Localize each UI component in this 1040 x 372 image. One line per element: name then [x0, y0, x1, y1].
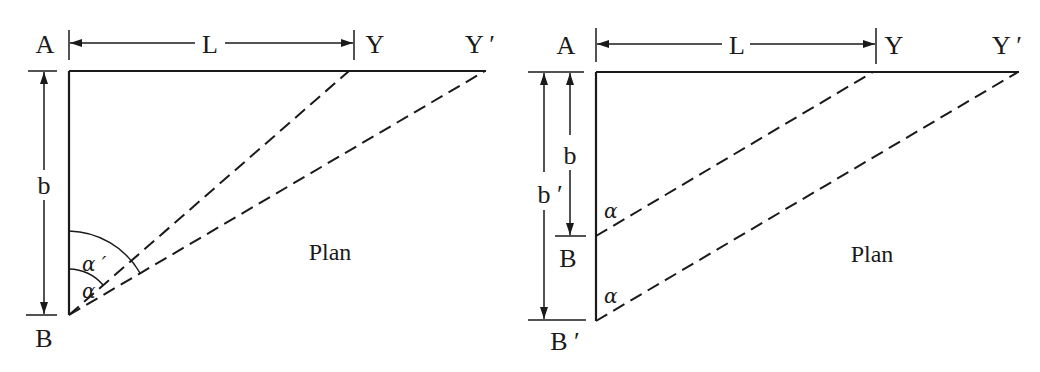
point-b-label: B	[559, 244, 576, 273]
angle-alpha-label-lower: α	[604, 284, 618, 308]
length-dimension: L	[596, 28, 876, 64]
point-b-label: B	[35, 324, 52, 353]
angle-alpha-label: α	[82, 279, 96, 303]
dashed-line-b-y	[596, 72, 873, 236]
point-y-label: Y	[885, 31, 904, 60]
point-a-label: A	[557, 31, 576, 60]
left-panel: L A Y Y ′ b B α α ′ Plan	[26, 30, 495, 353]
point-a-label: A	[36, 30, 55, 59]
point-y-prime-label: Y ′	[465, 30, 495, 59]
dashed-line-b-prime-y-prime	[596, 72, 1018, 321]
angle-alpha-label-upper: α	[604, 199, 618, 223]
breadth-label: b	[38, 171, 51, 200]
plan-label: Plan	[851, 241, 894, 267]
right-panel: L A Y Y ′ b ′ b B B ′ α α Plan	[528, 28, 1022, 356]
point-y-prime-label: Y ′	[992, 31, 1022, 60]
breadth-dimension: b	[555, 73, 586, 236]
dashed-line-b-y-prime	[69, 71, 485, 315]
breadth-dimension: b	[26, 71, 57, 315]
length-label: L	[202, 30, 218, 59]
length-dimension: L	[69, 30, 354, 60]
angle-alpha-prime-label: α ′	[82, 252, 107, 276]
diagram-canvas: L A Y Y ′ b B α α ′ Plan	[0, 0, 1040, 372]
breadth-prime-label: b ′	[537, 180, 562, 209]
length-label: L	[729, 31, 745, 60]
point-y-label: Y	[366, 30, 385, 59]
point-b-prime-label: B ′	[550, 327, 580, 356]
breadth-prime-dimension: b ′	[528, 72, 586, 320]
breadth-label: b	[564, 141, 577, 170]
plan-label: Plan	[309, 239, 352, 265]
dashed-line-b-y	[69, 71, 349, 315]
